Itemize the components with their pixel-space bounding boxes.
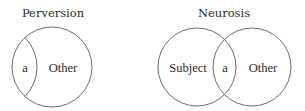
- subject-label: Subject: [169, 61, 207, 75]
- perversion-title: Perversion: [22, 6, 85, 20]
- venn-diagrams: Perversion a Other Neurosis Subject a Ot…: [0, 0, 305, 111]
- other-label: Other: [249, 61, 278, 75]
- object-a-label: a: [222, 61, 228, 75]
- other-label: Other: [49, 61, 78, 75]
- neurosis-title: Neurosis: [198, 6, 250, 20]
- neurosis-diagram: Neurosis Subject a Other: [158, 6, 291, 106]
- object-a-label: a: [22, 61, 28, 75]
- perversion-diagram: Perversion a Other: [12, 6, 92, 107]
